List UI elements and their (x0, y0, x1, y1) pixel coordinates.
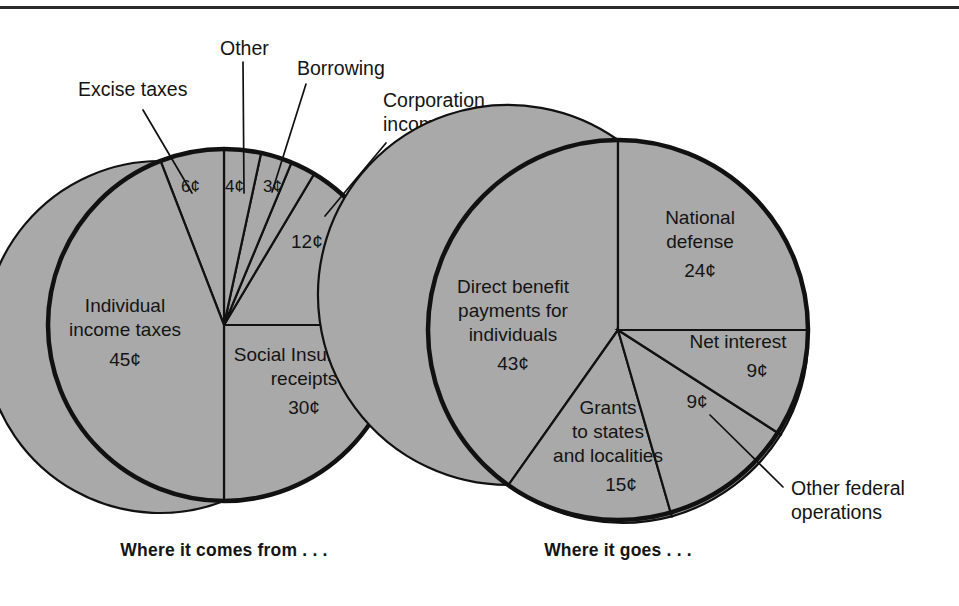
left-label-individual-line1: Individual (85, 295, 165, 316)
right-label-grants-line2: to states (572, 421, 644, 442)
right-label-grants-line1: Grants (579, 397, 636, 418)
right-value-direct: 43¢ (497, 353, 529, 374)
callout-borrowing: Borrowing (297, 57, 385, 79)
left-value-other: 4¢ (225, 177, 244, 196)
figure-page: Excise taxes Other Borrowing Corporation… (0, 0, 959, 606)
left-value-social: 30¢ (288, 397, 320, 418)
right-value-other-federal: 9¢ (686, 391, 707, 412)
right-label-net-interest: Net interest (689, 331, 787, 352)
left-label-social-line2: receipts (271, 368, 338, 389)
right-value-grants: 15¢ (605, 474, 637, 495)
left-value-individual: 45¢ (109, 349, 141, 370)
right-value-net-interest: 9¢ (746, 360, 767, 381)
left-label-individual-line2: income taxes (69, 319, 181, 340)
right-value-defense: 24¢ (684, 260, 716, 281)
left-value-borrowing: 3¢ (263, 177, 282, 196)
callout-other-federal-line2: operations (791, 501, 882, 523)
right-label-defense-line2: defense (666, 231, 734, 252)
left-value-excise: 6¢ (181, 177, 200, 196)
pie-charts-figure: Excise taxes Other Borrowing Corporation… (0, 0, 959, 606)
right-label-defense-line1: National (665, 207, 735, 228)
callout-other-federal-line1: Other federal (791, 477, 905, 499)
right-label-direct-line2: payments for (458, 300, 568, 321)
callout-other: Other (220, 37, 269, 59)
right-pie-chart: Other federal operations National defens… (318, 105, 905, 560)
left-caption: Where it comes from . . . (120, 540, 327, 560)
callout-excise-taxes: Excise taxes (78, 78, 188, 100)
right-label-direct-line1: Direct benefit (457, 276, 570, 297)
right-label-direct-line3: individuals (469, 324, 558, 345)
left-value-corporation: 12¢ (291, 231, 323, 252)
right-caption: Where it goes . . . (544, 540, 692, 560)
leader-line-other (243, 62, 244, 193)
right-label-grants-line3: and localities (553, 445, 663, 466)
